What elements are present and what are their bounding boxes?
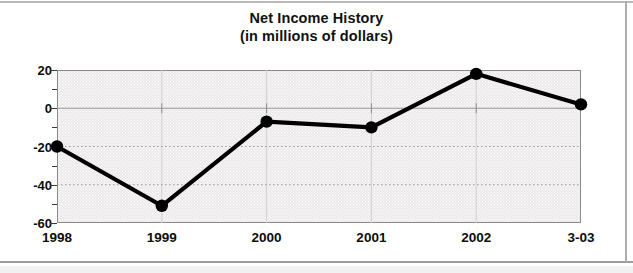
- chart-subtitle: (in millions of dollars): [0, 27, 633, 45]
- data-point-1998[interactable]: [51, 140, 63, 152]
- y-axis: 200-20-40-60: [0, 70, 52, 223]
- x-axis: 199819992000200120023-03: [0, 230, 633, 252]
- frame-top-border: [0, 1, 633, 3]
- x-tick-label-2000: 2000: [252, 230, 282, 245]
- x-tick-label-3-03: 3-03: [567, 230, 594, 245]
- y-tick-major-20: [50, 70, 57, 71]
- page-edge-shadow: [0, 266, 633, 273]
- x-tick-label-1999: 1999: [147, 230, 177, 245]
- x-tick-label-2002: 2002: [461, 230, 491, 245]
- chart-title-block: Net Income History (in millions of dolla…: [0, 9, 633, 45]
- x-tick-label-1998: 1998: [42, 230, 72, 245]
- chart-title: Net Income History: [0, 9, 633, 27]
- y-tick-major--60: [50, 223, 57, 224]
- y-tick-major--40: [50, 185, 57, 186]
- data-point-2001[interactable]: [365, 121, 377, 133]
- data-point-2000[interactable]: [260, 115, 272, 127]
- y-tick-major-0: [50, 108, 57, 109]
- chart-figure: Net Income History (in millions of dolla…: [0, 0, 633, 273]
- data-series-layer: [57, 70, 581, 223]
- data-point-1999[interactable]: [156, 200, 168, 212]
- data-point-2002[interactable]: [470, 68, 482, 80]
- frame-bottom-border: [0, 261, 633, 263]
- x-tick-label-2001: 2001: [356, 230, 386, 245]
- series-line-net-income: [57, 74, 581, 206]
- data-point-3-03[interactable]: [575, 98, 587, 110]
- plot-wrapper: [57, 70, 581, 223]
